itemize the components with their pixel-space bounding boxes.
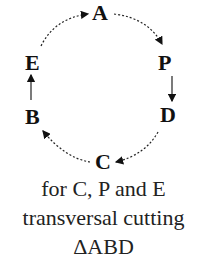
node-a: A bbox=[92, 2, 108, 24]
caption-line-3: ΔABD bbox=[0, 236, 207, 258]
node-p: P bbox=[158, 52, 171, 74]
node-d: D bbox=[160, 104, 176, 126]
edge-d-c bbox=[116, 132, 158, 162]
edge-e-a bbox=[41, 14, 88, 46]
node-c: C bbox=[95, 151, 111, 173]
caption-line-2: transversal cutting bbox=[0, 207, 207, 229]
node-e: E bbox=[25, 52, 40, 74]
edge-a-p bbox=[114, 14, 162, 44]
caption-line-1: for C, P and E bbox=[0, 178, 207, 200]
edge-c-b bbox=[43, 131, 90, 162]
node-b: B bbox=[25, 106, 40, 128]
